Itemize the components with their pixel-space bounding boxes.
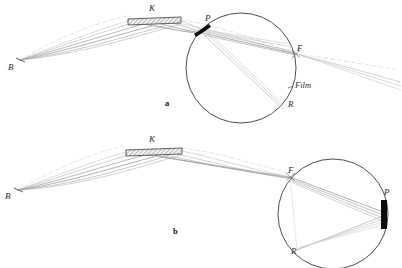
specimen-p-b	[381, 200, 387, 229]
focus-label-f: F	[297, 44, 303, 53]
panel-caption-a: a	[165, 99, 169, 108]
crystal-label-k: K	[149, 135, 155, 144]
panel-a-exit-rays	[296, 54, 401, 90]
detector-label-r: R	[291, 247, 297, 256]
panel-a-scattered-rays	[199, 29, 296, 109]
focus-label-f: F	[288, 166, 294, 175]
sample-label-p: P	[384, 188, 390, 197]
figure-canvas: B K P F R Film a B K F P R b	[0, 0, 402, 268]
panel-b-internal-rays	[290, 177, 383, 250]
detector-label-r: R	[288, 100, 294, 109]
crystal-k-a	[128, 17, 181, 25]
crystal-label-k: K	[149, 4, 155, 13]
ray-diagram-svg	[0, 0, 402, 268]
panel-caption-b: b	[173, 227, 178, 236]
sample-label-p: P	[205, 14, 211, 23]
source-label-b: B	[5, 192, 11, 201]
panel-b-group	[14, 146, 388, 268]
crystal-k-b	[126, 148, 182, 156]
film-label: Film	[295, 81, 311, 90]
source-label-b: B	[8, 63, 14, 72]
panel-a-group	[16, 13, 401, 123]
